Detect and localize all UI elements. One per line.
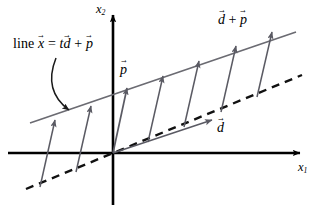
d-plus-p-first: d — [218, 12, 225, 28]
equation-plus: + — [74, 36, 82, 51]
equation-equals: = — [48, 36, 56, 51]
equation-lhs-vector: x — [38, 36, 44, 52]
direction-vector-d — [113, 120, 212, 153]
p-vector-label-text: p — [120, 62, 127, 78]
d-plus-p-second: p — [240, 12, 247, 28]
translation-arrow-group — [40, 32, 272, 187]
position-vector-p — [113, 88, 127, 153]
y-axis-label: x2 — [96, 2, 105, 17]
d-plus-p-label: d + p — [218, 12, 247, 28]
p-vector-label: p — [120, 62, 127, 78]
diagram-canvas — [0, 0, 326, 210]
vector-line-diagram: line x = td + p x2 x1 p d d + p — [0, 0, 326, 210]
x-axis-label-sub: 1 — [304, 166, 308, 175]
equation-direction-vector: d — [64, 36, 71, 52]
y-axis-label-sub: 2 — [102, 8, 106, 17]
translation-arrow — [257, 32, 272, 97]
line-equation-label: line x = td + p — [13, 36, 93, 52]
d-vector-label: d — [217, 120, 224, 136]
translation-arrow — [76, 106, 91, 172]
translation-arrow — [184, 61, 199, 127]
x-axis-label: x1 — [298, 160, 307, 175]
equation-word: line — [13, 36, 34, 51]
d-plus-p-plus: + — [229, 12, 237, 27]
annotation-curve-arrow — [52, 58, 69, 110]
equation-point-vector: p — [86, 36, 93, 52]
d-vector-label-text: d — [217, 120, 224, 136]
dashed-direction-line — [26, 75, 302, 189]
